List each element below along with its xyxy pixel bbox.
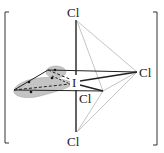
central-atom-label: I: [72, 75, 76, 90]
ligand-label-top: Cl: [67, 5, 80, 20]
ligand-label-right: Cl: [139, 65, 152, 80]
ligand-label-front: Cl: [79, 91, 92, 106]
bonds: [76, 20, 137, 132]
right-bracket: [153, 12, 157, 145]
molecule-diagram: I Cl Cl Cl Cl: [0, 0, 164, 153]
electron-dot: [30, 91, 33, 94]
left-bracket: [5, 12, 9, 143]
electron-dot: [51, 77, 54, 80]
electron-dot: [28, 81, 31, 84]
ligand-label-bottom: Cl: [67, 134, 80, 149]
